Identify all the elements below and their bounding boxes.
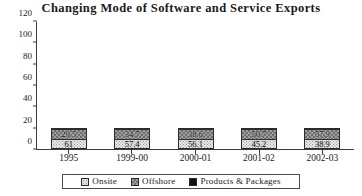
bar-segment-value-label: 29.5 (61, 130, 76, 139)
bar-slot: 29.561 (37, 22, 100, 149)
stacked-bar[interactable]: 34.757.4 (114, 128, 150, 149)
x-axis-labels: 19951999-002000-012001-022002-03 (37, 154, 354, 164)
bar-segment-value-label: 38.6 (188, 130, 203, 139)
bar-slot: 57.938.9 (291, 22, 354, 149)
x-axis-label: 2001-02 (227, 154, 290, 164)
y-axis-tick-label: 80 (23, 51, 36, 60)
legend-label: Onsite (92, 177, 117, 186)
x-axis-label: 2002-03 (291, 154, 354, 164)
y-axis-tick-label: 60 (23, 73, 36, 82)
x-axis-label: 1995 (37, 154, 100, 164)
bar-segment-offshore[interactable]: 38.6 (178, 129, 214, 139)
stacked-bar[interactable]: 38.656.1 (178, 128, 214, 149)
bar-series-group: 29.56134.757.438.656.150.745.257.938.9 (37, 22, 354, 149)
bar-segment-onsite[interactable]: 38.9 (304, 139, 340, 150)
chart-legend: OnsiteOffshoreProducts & Packages (62, 174, 300, 189)
bar-segment-offshore[interactable]: 50.7 (241, 129, 277, 139)
y-axis-tick-label: 20 (23, 115, 36, 124)
x-axis-label: 2000-01 (164, 154, 227, 164)
bar-segment-offshore[interactable]: 34.7 (114, 129, 150, 139)
y-axis-tick-label: 0 (28, 137, 37, 146)
legend-label: Products & Packages (200, 177, 280, 186)
bar-segment-value-label: 38.9 (315, 140, 330, 149)
legend-item-offshore[interactable]: Offshore (131, 177, 175, 186)
legend-swatch-onsite-icon (81, 178, 89, 186)
stacked-bar[interactable]: 57.938.9 (304, 128, 340, 149)
legend-swatch-offshore-icon (131, 178, 139, 186)
plot-area: 020406080100120 29.56134.757.438.656.150… (36, 22, 354, 150)
bar-segment-onsite[interactable]: 56.1 (178, 139, 214, 150)
bar-slot: 38.656.1 (164, 22, 227, 149)
bar-segment-onsite[interactable]: 61 (51, 139, 87, 150)
x-axis-label: 1999-00 (100, 154, 163, 164)
bar-segment-value-label: 56.1 (188, 140, 203, 149)
y-axis-tick-label: 120 (19, 9, 37, 18)
stacked-bar[interactable]: 50.745.2 (241, 128, 277, 149)
bar-segment-value-label: 57.4 (125, 140, 140, 149)
legend-item-onsite[interactable]: Onsite (81, 177, 117, 186)
bar-segment-offshore[interactable]: 29.5 (51, 129, 87, 139)
legend-label: Offshore (142, 177, 175, 186)
bar-segment-value-label: 57.9 (315, 130, 330, 139)
legend-item-products[interactable]: Products & Packages (189, 177, 280, 186)
stacked-bar[interactable]: 29.561 (51, 128, 87, 149)
bar-slot: 50.745.2 (227, 22, 290, 149)
bar-segment-value-label: 61 (64, 140, 73, 149)
legend-swatch-products-icon (189, 178, 197, 186)
chart-title: Changing Mode of Software and Service Ex… (0, 1, 362, 16)
bar-segment-value-label: 45.2 (251, 140, 266, 149)
bar-segment-value-label: 34.7 (125, 130, 140, 139)
bar-slot: 34.757.4 (100, 22, 163, 149)
bar-segment-onsite[interactable]: 57.4 (114, 139, 150, 150)
bar-segment-onsite[interactable]: 45.2 (241, 139, 277, 150)
bar-segment-value-label: 50.7 (251, 130, 266, 139)
bar-segment-offshore[interactable]: 57.9 (304, 129, 340, 139)
y-axis-tick-label: 40 (23, 94, 36, 103)
y-axis-tick-label: 100 (19, 30, 37, 39)
